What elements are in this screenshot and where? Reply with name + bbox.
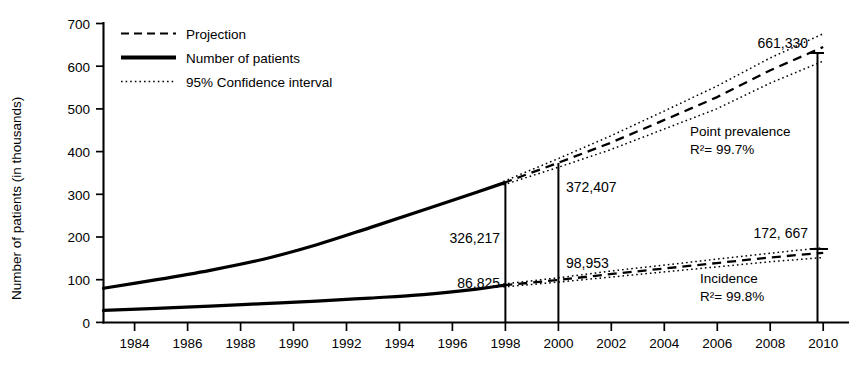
x-tick-label-2004: 2004 [649,336,680,351]
y-tick-label-100: 100 [67,273,90,288]
x-tick-label-1984: 1984 [120,336,151,351]
legend-label-confidence-interval: 95% Confidence interval [186,75,332,90]
y-tick-label-700: 700 [67,17,90,32]
label-incidence-r2: R²= 99.8% [700,289,764,304]
series-prevalence-observed [104,183,504,288]
legend-item-observed[interactable]: Number of patients [121,51,300,66]
annotation-2010-incidence: 172, 667 [754,225,809,241]
x-tick-marks [135,323,824,332]
legend-label-observed: Number of patients [186,51,300,66]
annotation-2000-incidence: 98,953 [566,255,609,271]
group-labels: Point prevalence R²= 99.7% Incidence R²=… [690,124,791,304]
x-tick-label-1988: 1988 [226,336,256,351]
chart-container: 700 600 500 400 300 200 100 0 Number of … [0,0,855,370]
series-prevalence-ci-upper [503,34,823,182]
series-prevalence-projection [503,47,823,183]
y-tick-label-600: 600 [67,60,90,75]
annotation-1998-incidence: 86,825 [457,275,500,291]
x-tick-label-2008: 2008 [755,336,785,351]
label-incidence: Incidence [700,271,758,286]
y-tick-label-500: 500 [67,102,90,117]
y-tick-label-400: 400 [67,145,90,160]
annotation-2010-prevalence: 661,330 [757,35,808,51]
x-tick-label-1998: 1998 [490,336,520,351]
value-annotations: 326,217 86,825 372,407 98,953 661,330 17… [449,35,808,291]
legend-label-projection: Projection [186,27,246,42]
series-incidence-projection [503,253,823,286]
x-tick-label-2006: 2006 [702,336,732,351]
series-incidence-ci-upper [503,248,823,284]
line-chart: 700 600 500 400 300 200 100 0 Number of … [0,0,855,370]
x-tick-label-2002: 2002 [596,336,626,351]
y-tick-label-300: 300 [67,188,90,203]
y-tick-label-200: 200 [67,230,90,245]
y-axis-title: Number of patients (in thousands) [9,97,24,300]
annotation-1998-prevalence: 326,217 [449,230,500,246]
legend: Projection Number of patients 95% Confid… [121,27,332,90]
y-tick-label-0: 0 [82,316,90,331]
x-tick-label-1992: 1992 [331,336,361,351]
x-tick-label-1994: 1994 [384,336,415,351]
x-tick-label-1990: 1990 [278,336,308,351]
x-tick-label-1986: 1986 [173,336,203,351]
legend-item-projection[interactable]: Projection [121,27,246,42]
annotation-2000-prevalence: 372,407 [566,179,617,195]
x-tick-label-2000: 2000 [543,336,573,351]
legend-item-ci[interactable]: 95% Confidence interval [121,75,332,90]
series-incidence-ci-lower [503,258,823,287]
x-tick-labels: 1984 1986 1988 1990 1992 1994 1996 1998 … [120,336,839,351]
label-point-prevalence-r2: R²= 99.7% [690,142,754,157]
x-tick-label-2010: 2010 [808,336,838,351]
y-tick-labels: 700 600 500 400 300 200 100 0 [67,17,90,331]
series-incidence-observed [104,285,504,310]
label-point-prevalence: Point prevalence [690,124,791,139]
x-tick-label-1996: 1996 [437,336,467,351]
